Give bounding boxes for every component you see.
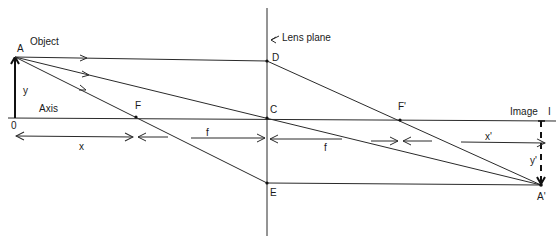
label-x-prime: x' bbox=[485, 131, 492, 142]
label-F-prime: F' bbox=[398, 101, 406, 112]
label-origin: 0 bbox=[11, 120, 17, 131]
lens-plane-pointer-icon bbox=[271, 36, 279, 43]
label-F: F bbox=[135, 100, 141, 111]
label-f-right: f bbox=[324, 142, 327, 153]
label-A-prime: A' bbox=[537, 191, 546, 202]
ray-central bbox=[15, 57, 541, 185]
label-lens-plane: Lens plane bbox=[282, 32, 331, 43]
thin-lens-ray-diagram: A Object y Axis 0 F C D E Lens plane F' … bbox=[0, 0, 560, 242]
point-E bbox=[265, 181, 268, 184]
point-A-prime bbox=[539, 183, 543, 187]
label-axis: Axis bbox=[39, 103, 58, 114]
label-y-prime: y' bbox=[530, 155, 537, 166]
label-E: E bbox=[270, 187, 277, 198]
label-x: x bbox=[79, 141, 84, 152]
point-D bbox=[265, 59, 268, 62]
point-F bbox=[134, 115, 137, 118]
label-object: Object bbox=[30, 36, 59, 47]
label-I: I bbox=[548, 106, 551, 117]
label-D: D bbox=[272, 52, 279, 63]
label-f-left: f bbox=[206, 127, 209, 138]
point-C bbox=[265, 116, 268, 119]
label-image: Image bbox=[510, 106, 538, 117]
label-y: y bbox=[23, 85, 28, 96]
ray-focal-incident bbox=[15, 57, 267, 183]
distance-x-prime-arrow-end bbox=[461, 142, 545, 143]
distance-x-arrow bbox=[16, 136, 133, 137]
label-C: C bbox=[270, 104, 277, 115]
ray-parallel-refracted bbox=[267, 61, 541, 185]
ray-parallel-incident bbox=[15, 57, 267, 61]
ray-focal-refracted bbox=[267, 183, 541, 185]
optical-axis-line bbox=[8, 118, 556, 121]
label-A: A bbox=[17, 43, 24, 54]
point-F-prime bbox=[398, 118, 401, 121]
